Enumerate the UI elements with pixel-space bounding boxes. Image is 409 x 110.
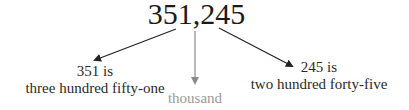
right-group-label: 245 is two hundred forty-five bbox=[246, 59, 392, 93]
left-label-line1: 351 is bbox=[0, 63, 190, 80]
right-label-line2: two hundred forty-five bbox=[246, 76, 392, 93]
left-arrow bbox=[95, 29, 176, 60]
thousand-label: thousand bbox=[145, 90, 245, 107]
right-label-line1: 245 is bbox=[246, 59, 392, 76]
